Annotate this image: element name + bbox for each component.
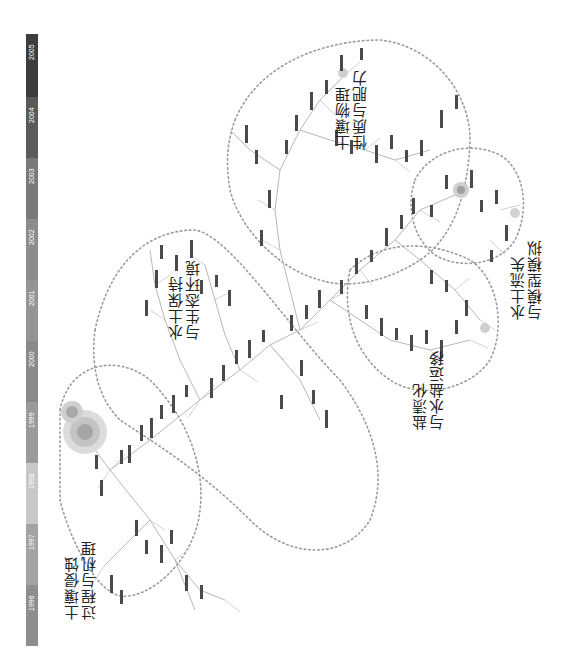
keyword-node-labels — [95, 48, 508, 604]
cluster-label-loss: 水土流失 与模型模拟 — [510, 210, 544, 320]
cluster-label-physics: 土壤物理 性质与肥力 — [335, 40, 369, 150]
cluster-label-conservation: 水土保持 与生态环境 — [168, 230, 202, 340]
knowledge-map-figure: 1996 1997 1998 1999 2000 2001 2002 2003 … — [0, 0, 577, 665]
cluster-label-erosion: 土壤侵蚀 过程与机理 — [64, 520, 98, 620]
hub-nodes — [61, 68, 520, 454]
cluster-outline-conservation — [94, 230, 378, 550]
cluster-label-salinization: 盐渍化 与水盐运移 — [412, 330, 446, 430]
